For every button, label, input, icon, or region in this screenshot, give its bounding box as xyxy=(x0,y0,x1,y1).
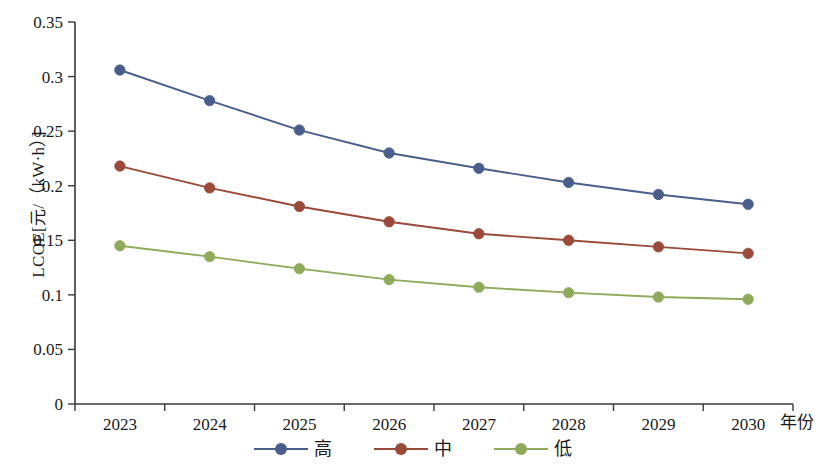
data-point-低-2027 xyxy=(474,282,484,292)
chart-legend: 高中低 xyxy=(0,440,825,458)
legend-swatch-icon xyxy=(494,442,548,456)
x-tick-label: 2028 xyxy=(524,416,614,433)
data-point-高-2027 xyxy=(474,163,484,173)
data-point-中-2025 xyxy=(294,201,304,211)
legend-label: 低 xyxy=(554,440,572,458)
x-tick-label: 2026 xyxy=(344,416,434,433)
data-point-低-2028 xyxy=(563,287,573,297)
data-point-低-2026 xyxy=(384,274,394,284)
data-point-低-2030 xyxy=(743,294,753,304)
legend-label: 中 xyxy=(434,440,452,458)
data-point-高-2026 xyxy=(384,148,394,158)
data-point-中-2028 xyxy=(563,235,573,245)
legend-swatch-icon xyxy=(254,442,308,456)
x-tick-label: 2029 xyxy=(614,416,704,433)
data-point-中-2030 xyxy=(743,248,753,258)
legend-dot-icon xyxy=(275,443,287,455)
series-line-中 xyxy=(120,166,748,253)
data-point-低-2024 xyxy=(204,251,214,261)
legend-item-低[interactable]: 低 xyxy=(494,440,572,458)
x-tick-label: 2023 xyxy=(75,416,165,433)
legend-item-中[interactable]: 中 xyxy=(374,440,452,458)
data-point-低-2029 xyxy=(653,292,663,302)
data-point-高-2023 xyxy=(115,65,125,75)
data-point-中-2024 xyxy=(204,183,214,193)
data-point-中-2023 xyxy=(115,161,125,171)
data-point-高-2028 xyxy=(563,177,573,187)
data-point-低-2023 xyxy=(115,241,125,251)
legend-swatch-icon xyxy=(374,442,428,456)
legend-dot-icon xyxy=(395,443,407,455)
y-axis-title: LCOE[元/（kW·h）] xyxy=(30,55,47,355)
data-point-高-2029 xyxy=(653,189,663,199)
series-line-高 xyxy=(120,70,748,204)
data-point-中-2029 xyxy=(653,242,663,252)
data-point-高-2030 xyxy=(743,199,753,209)
chart-plot-area xyxy=(0,0,825,469)
data-point-中-2026 xyxy=(384,217,394,227)
x-tick-label: 2024 xyxy=(165,416,255,433)
y-tick-label: 0 xyxy=(0,396,63,413)
data-point-中-2027 xyxy=(474,229,484,239)
legend-label: 高 xyxy=(314,440,332,458)
lcoe-line-chart: 00.050.10.150.20.250.30.35 2023202420252… xyxy=(0,0,825,469)
x-tick-label: 2025 xyxy=(255,416,345,433)
x-axis-title: 年份 xyxy=(780,414,814,431)
data-point-高-2024 xyxy=(204,95,214,105)
x-tick-label: 2027 xyxy=(434,416,524,433)
legend-dot-icon xyxy=(515,443,527,455)
y-tick-label: 0.35 xyxy=(0,14,63,31)
data-point-低-2025 xyxy=(294,263,304,273)
legend-item-高[interactable]: 高 xyxy=(254,440,332,458)
data-point-高-2025 xyxy=(294,125,304,135)
